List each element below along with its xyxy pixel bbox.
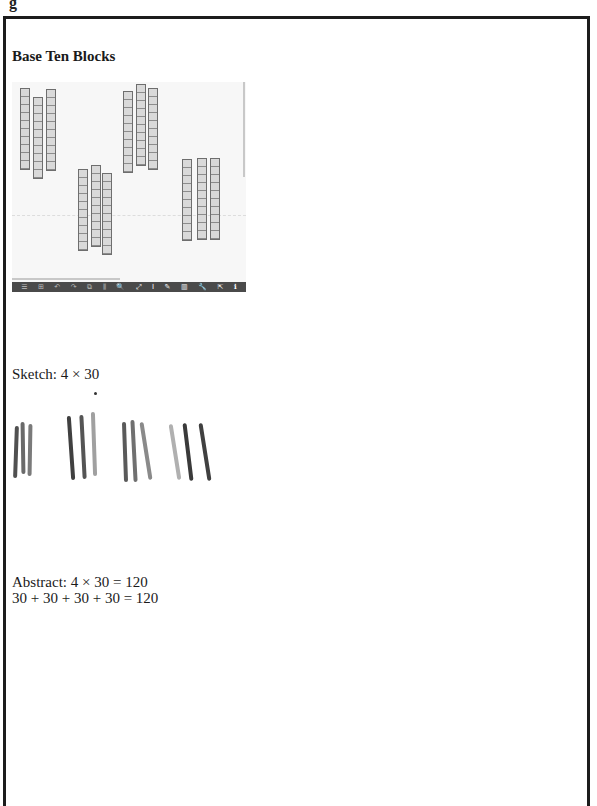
sketch-stroke (21, 422, 26, 474)
trash-icon[interactable]: ▥ (181, 282, 188, 292)
horizontal-scrollbar[interactable] (12, 278, 120, 280)
ten-rod-block[interactable] (20, 88, 30, 170)
ten-rod-block[interactable] (46, 89, 56, 171)
wrench-icon[interactable]: 🔧 (198, 282, 207, 292)
sketch-label: Sketch: 4 × 30 (12, 366, 99, 383)
ten-rod-block[interactable] (102, 173, 112, 255)
sketch-stroke (79, 415, 86, 479)
canvas-toolbar: ☰⊞↶↷⧉⫼🔍⤢I✎▥🔧⇱ℹ (12, 282, 246, 292)
ten-rod-block[interactable] (182, 159, 192, 241)
abstract-line-2: 30 + 30 + 30 + 30 = 120 (12, 590, 158, 606)
ten-rod-block[interactable] (33, 97, 43, 179)
vertical-scrollbar[interactable] (243, 82, 245, 177)
text-icon[interactable]: I (152, 282, 154, 292)
redo-icon[interactable]: ↷ (71, 282, 77, 292)
sketch-stroke (169, 424, 182, 480)
sketch-stroke (91, 412, 97, 476)
ten-rod-block[interactable] (148, 88, 158, 170)
abstract-section: Abstract: 4 × 30 = 120 30 + 30 + 30 + 30… (12, 574, 158, 606)
sketch-stroke (67, 416, 75, 480)
grid-icon[interactable]: ⊞ (38, 282, 44, 292)
zoom-icon[interactable]: 🔍 (116, 282, 125, 292)
ten-rod-block[interactable] (123, 91, 133, 173)
fit-icon[interactable]: ⤢ (136, 282, 142, 292)
sketch-stroke (130, 420, 137, 482)
copy-icon[interactable]: ⧉ (87, 282, 92, 292)
columns-icon[interactable]: ⫼ (103, 282, 106, 292)
ten-rod-block[interactable] (91, 165, 101, 247)
sketch-stroke (198, 423, 211, 481)
share-icon[interactable]: ⇱ (218, 282, 224, 292)
sketch-stroke (182, 423, 193, 481)
page-title: Base Ten Blocks (12, 48, 115, 65)
sketch-stroke (122, 422, 128, 482)
sketch-drawing (10, 390, 230, 490)
sketch-stroke (139, 422, 152, 480)
sketch-stroke (28, 424, 33, 476)
ten-rod-block[interactable] (210, 158, 220, 240)
ten-rod-block[interactable] (197, 158, 207, 240)
undo-icon[interactable]: ↶ (54, 282, 60, 292)
sketch-stroke (13, 426, 19, 478)
info-icon[interactable]: ℹ (234, 282, 237, 292)
base-ten-blocks-canvas[interactable]: ☰⊞↶↷⧉⫼🔍⤢I✎▥🔧⇱ℹ (12, 82, 246, 292)
pen-icon[interactable]: ✎ (165, 282, 171, 292)
sketch-dot (94, 392, 97, 395)
ten-rod-block[interactable] (78, 169, 88, 251)
ten-rod-block[interactable] (136, 84, 146, 166)
abstract-line-1: Abstract: 4 × 30 = 120 (12, 574, 158, 590)
menu-icon[interactable]: ☰ (21, 282, 27, 292)
cropped-heading-glyph: g (9, 0, 17, 12)
